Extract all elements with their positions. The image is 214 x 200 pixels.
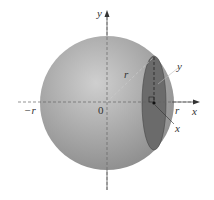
sphere-diagram: y x 0 −r r r y x [0,0,214,200]
origin-label: 0 [98,104,104,116]
slice-y-label: y [176,60,182,72]
y-arrow-icon [105,10,110,17]
slice-point [152,101,155,104]
y-axis-label: y [96,7,102,19]
x-axis-label: x [191,105,197,117]
x-arrow-icon [193,100,200,105]
radius-label: r [124,68,129,80]
pos-r-label: r [175,104,180,116]
neg-r-label: −r [24,104,36,116]
slice-x-label: x [174,122,180,134]
